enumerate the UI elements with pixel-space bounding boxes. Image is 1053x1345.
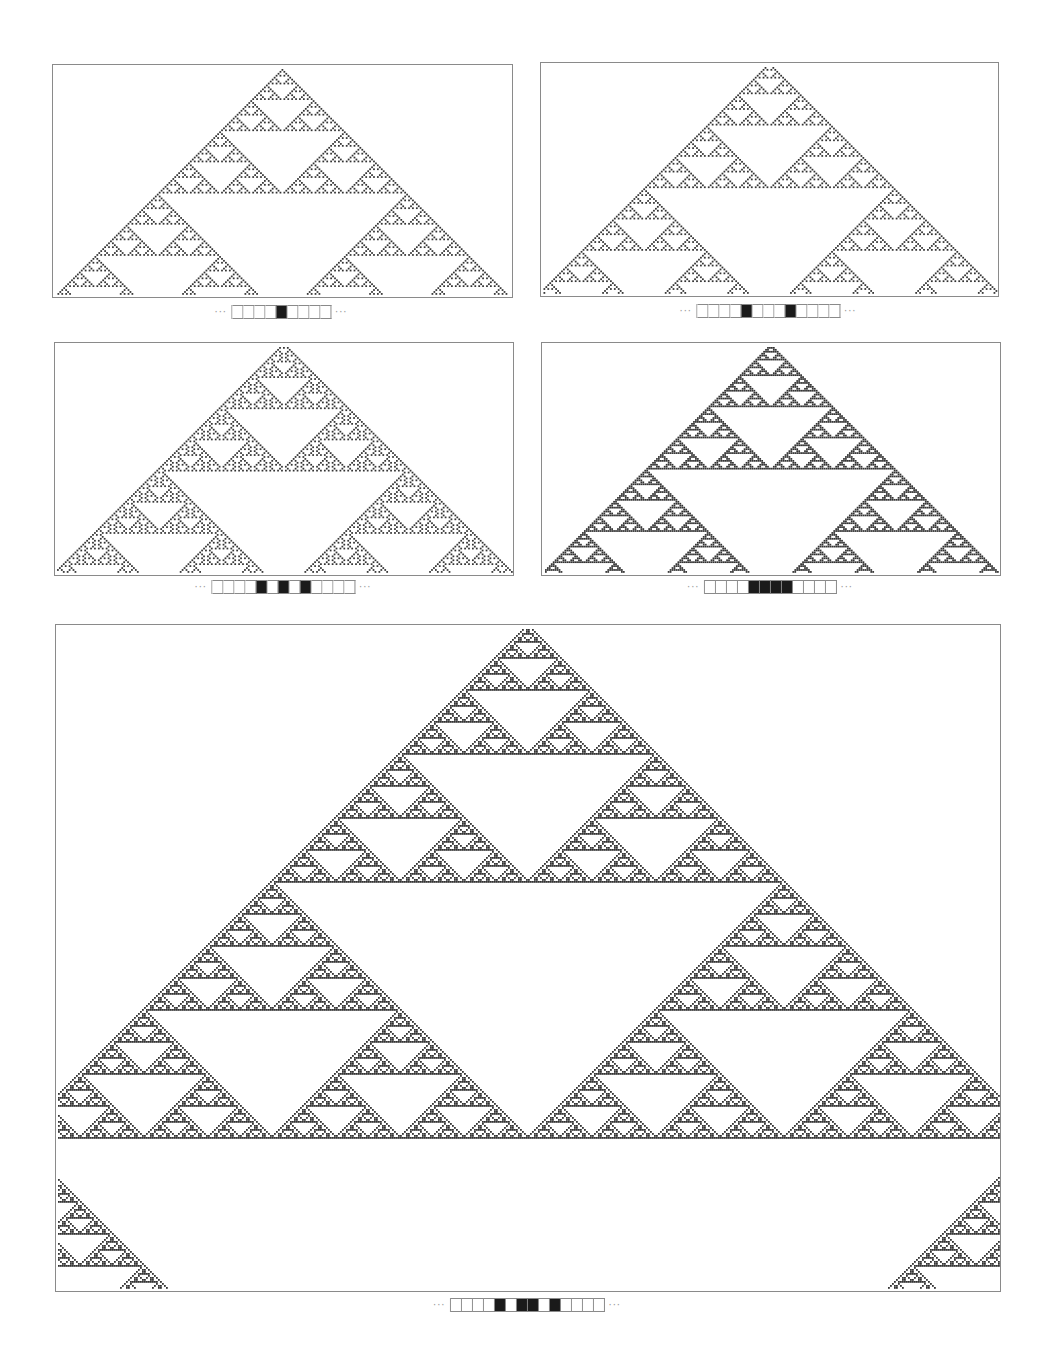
white-cell	[774, 304, 785, 318]
white-cell	[320, 305, 331, 319]
white-cell	[716, 580, 727, 594]
white-cell	[539, 1298, 550, 1312]
white-cell	[309, 305, 320, 319]
white-cell	[484, 1298, 495, 1312]
white-cell	[594, 1298, 605, 1312]
initial-cells	[696, 304, 840, 318]
ca-pattern-canvas	[541, 63, 998, 296]
white-cell	[287, 305, 298, 319]
white-cell	[254, 305, 265, 319]
ca-pattern-canvas	[56, 625, 1000, 1291]
black-cell	[760, 580, 771, 594]
black-cell	[276, 305, 287, 319]
white-cell	[804, 580, 815, 594]
initial-cells	[211, 580, 355, 594]
white-cell	[223, 580, 234, 594]
white-cell	[473, 1298, 484, 1312]
white-cell	[738, 580, 749, 594]
initial-cells	[704, 580, 837, 594]
white-cell	[212, 580, 223, 594]
initial-cells	[231, 305, 331, 319]
ellipsis-left: ···	[687, 580, 700, 594]
white-cell	[826, 580, 837, 594]
white-cell	[829, 304, 840, 318]
white-cell	[267, 580, 278, 594]
ca-pattern-canvas	[53, 65, 512, 297]
white-cell	[506, 1298, 517, 1312]
white-cell	[705, 580, 716, 594]
ellipsis-left: ···	[679, 304, 692, 318]
black-cell	[785, 304, 796, 318]
initial-condition-panel-1: ······	[210, 305, 351, 319]
ca-evolution-panel-3	[54, 342, 514, 576]
ellipsis-right: ···	[844, 304, 857, 318]
white-cell	[311, 580, 322, 594]
white-cell	[245, 580, 256, 594]
white-cell	[583, 1298, 594, 1312]
white-cell	[796, 304, 807, 318]
black-cell	[256, 580, 267, 594]
black-cell	[495, 1298, 506, 1312]
white-cell	[708, 304, 719, 318]
white-cell	[572, 1298, 583, 1312]
white-cell	[697, 304, 708, 318]
white-cell	[727, 580, 738, 594]
ellipsis-right: ···	[359, 580, 372, 594]
white-cell	[298, 305, 309, 319]
white-cell	[232, 305, 243, 319]
white-cell	[561, 1298, 572, 1312]
ellipsis-left: ···	[433, 1298, 446, 1312]
ca-evolution-panel-1	[52, 64, 513, 298]
ellipsis-left: ···	[214, 305, 227, 319]
black-cell	[749, 580, 760, 594]
white-cell	[752, 304, 763, 318]
initial-condition-panel-2: ······	[675, 304, 860, 318]
white-cell	[243, 305, 254, 319]
black-cell	[550, 1298, 561, 1312]
black-cell	[278, 580, 289, 594]
white-cell	[793, 580, 804, 594]
ellipsis-right: ···	[335, 305, 348, 319]
ca-pattern-canvas	[55, 343, 513, 575]
black-cell	[782, 580, 793, 594]
white-cell	[730, 304, 741, 318]
ellipsis-left: ···	[194, 580, 207, 594]
ellipsis-right: ···	[609, 1298, 622, 1312]
white-cell	[333, 580, 344, 594]
initial-cells	[450, 1298, 605, 1312]
black-cell	[517, 1298, 528, 1312]
ca-evolution-panel-5	[55, 624, 1001, 1292]
white-cell	[818, 304, 829, 318]
white-cell	[763, 304, 774, 318]
white-cell	[815, 580, 826, 594]
ca-evolution-panel-4	[541, 342, 1001, 576]
black-cell	[741, 304, 752, 318]
ellipsis-right: ···	[841, 580, 854, 594]
white-cell	[344, 580, 355, 594]
white-cell	[234, 580, 245, 594]
initial-condition-panel-5: ······	[429, 1298, 625, 1312]
ca-evolution-panel-2	[540, 62, 999, 297]
white-cell	[265, 305, 276, 319]
initial-condition-panel-3: ······	[190, 580, 375, 594]
black-cell	[528, 1298, 539, 1312]
black-cell	[300, 580, 311, 594]
white-cell	[289, 580, 300, 594]
white-cell	[807, 304, 818, 318]
white-cell	[719, 304, 730, 318]
ca-pattern-canvas	[542, 343, 1000, 575]
black-cell	[771, 580, 782, 594]
white-cell	[322, 580, 333, 594]
white-cell	[462, 1298, 473, 1312]
white-cell	[451, 1298, 462, 1312]
initial-condition-panel-4: ······	[683, 580, 857, 594]
